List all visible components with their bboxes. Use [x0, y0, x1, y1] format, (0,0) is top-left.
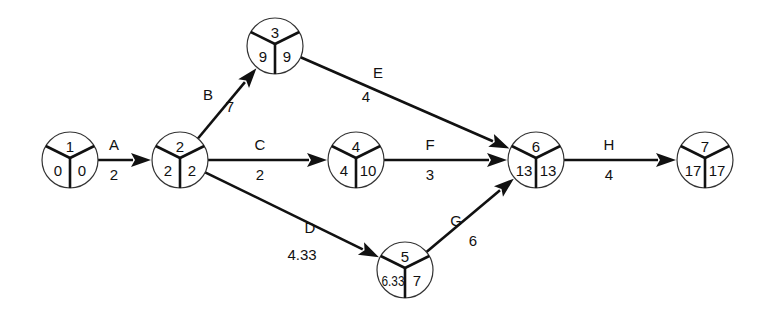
activity-duration: 4 — [605, 166, 613, 183]
activity-H: H4 — [564, 136, 676, 183]
earliest-time: 2 — [164, 162, 172, 179]
activity-F: F3 — [384, 136, 507, 183]
latest-time: 9 — [283, 48, 291, 65]
activity-name: B — [203, 86, 213, 103]
nodes-layer: 100222399441056.3376131371717 — [42, 18, 733, 298]
activity-name: A — [109, 136, 119, 153]
activity-name: F — [425, 136, 434, 153]
activity-B: B7 — [198, 68, 257, 138]
activity-duration: 3 — [426, 166, 434, 183]
event-node-4: 4410 — [328, 132, 384, 188]
activity-name: H — [604, 136, 615, 153]
project-network-diagram: A2B7C2D4.33E4F3G6H4 100222399441056.3376… — [0, 0, 767, 327]
node-number: 7 — [701, 138, 709, 155]
latest-time: 17 — [709, 162, 726, 179]
activity-duration: 4.33 — [287, 246, 316, 263]
activity-duration: 6 — [469, 232, 477, 249]
arrow-line — [205, 172, 363, 249]
event-node-2: 222 — [152, 132, 208, 188]
earliest-time: 0 — [54, 162, 62, 179]
earliest-time: 17 — [685, 162, 702, 179]
node-number: 2 — [176, 138, 184, 155]
arrow-line — [301, 57, 493, 141]
latest-time: 2 — [188, 162, 196, 179]
activity-name: D — [305, 219, 316, 236]
event-node-6: 61313 — [508, 132, 564, 188]
activity-E: E4 — [301, 57, 510, 148]
earliest-time: 6.33 — [382, 272, 405, 289]
activity-name: C — [255, 136, 266, 153]
activity-duration: 2 — [110, 166, 118, 183]
arrowhead-icon — [656, 153, 676, 167]
activity-name: E — [373, 64, 383, 81]
node-number: 4 — [352, 138, 360, 155]
node-number: 6 — [532, 138, 540, 155]
event-node-1: 100 — [42, 132, 98, 188]
activity-duration: 2 — [256, 166, 264, 183]
event-node-7: 71717 — [677, 132, 733, 188]
event-node-5: 56.337 — [377, 242, 433, 298]
arrowhead-icon — [131, 153, 151, 167]
arrowhead-icon — [307, 153, 327, 167]
event-node-3: 399 — [247, 18, 303, 74]
earliest-time: 9 — [259, 48, 267, 65]
activity-C: C2 — [208, 136, 327, 183]
activity-A: A2 — [98, 136, 151, 183]
activity-name: G — [450, 212, 462, 229]
activity-G: G6 — [426, 179, 513, 252]
activity-duration: 7 — [226, 98, 234, 115]
node-number: 5 — [401, 248, 409, 265]
arrowhead-icon — [487, 153, 507, 167]
node-number: 1 — [66, 138, 74, 155]
latest-time: 0 — [78, 162, 86, 179]
earliest-time: 4 — [340, 162, 348, 179]
node-number: 3 — [271, 24, 279, 41]
latest-time: 10 — [360, 162, 377, 179]
arrow-line — [426, 190, 500, 252]
activity-duration: 4 — [362, 88, 370, 105]
latest-time: 13 — [540, 162, 557, 179]
earliest-time: 13 — [516, 162, 533, 179]
latest-time: 7 — [413, 272, 421, 289]
